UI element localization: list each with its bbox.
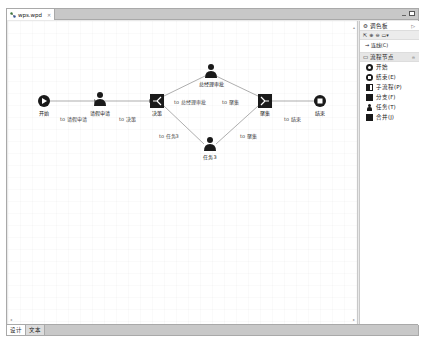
node-start[interactable]: 开始 [38,95,50,117]
node-gm-task[interactable]: 总经理审批 [199,64,224,88]
folder-icon: ▭ [363,54,368,60]
svg-text:请假申请: 请假申请 [90,110,110,117]
workflow-file-icon [10,12,16,18]
svg-text:总经理审批: 总经理审批 [199,81,224,88]
editor-tab-wps[interactable]: wps.wpd ✕ [7,9,55,20]
tab-source[interactable]: 文本 [26,325,45,335]
close-tab-icon[interactable]: ✕ [47,12,51,18]
process-nodes-drawer[interactable]: ▭ 流程节点 ⊖ [360,52,419,62]
marquee-tool-icon[interactable]: ▭▾ [382,32,389,38]
edge-label: to 总经理审批 [174,99,206,106]
end-icon [366,74,373,81]
palette-panel: ⚙ 调色板 ▷ ⇱ ⊕ ⊖ ▭▾ → 连线(C) ▭ 流程节点 ⊖ 开始 结束(… [359,21,419,325]
task-icon [366,104,373,111]
node-task3[interactable]: 任务3 [203,137,216,161]
scroll-corner-marker[interactable]: ▸ [353,317,355,322]
vertical-scroll-marker[interactable]: ▴ [353,25,355,30]
connection-label: → 连线(C) [365,41,388,48]
drawer-toggle-icon[interactable]: ⊖ [412,55,415,60]
edge-label: to 请假申请 [60,116,87,123]
palette-item-subprocess[interactable]: 子流程(P) [360,82,419,92]
horizontal-scroll-marker[interactable]: ◂ [10,317,12,322]
editor-bottom-tabs: 设计 文本 [7,324,418,335]
svg-text:决策: 决策 [152,110,162,117]
edge-label: to 决策 [119,116,136,123]
node-apply-task[interactable]: 请假申请 [90,92,110,117]
edge-label: to 聚集 [240,133,257,140]
window-controls [402,11,415,16]
node-end[interactable]: 结束 [314,95,326,117]
workflow-diagram: 开始 请假申请 决策 总经理审批 [8,21,358,325]
palette-item-start[interactable]: 开始 [360,62,419,72]
zoom-in-icon[interactable]: ⊕ [369,32,373,38]
node-merge-join[interactable]: 聚集 [258,94,272,117]
subprocess-icon [366,84,373,91]
select-tool-icon[interactable]: ⇱ [363,32,367,38]
minimize-icon[interactable] [402,15,406,16]
maximize-icon[interactable] [409,11,415,16]
palette-collapse-icon[interactable]: ▷ [411,23,415,29]
palette-item-task[interactable]: 任务(T) [360,102,419,112]
zoom-out-icon[interactable]: ⊖ [375,32,379,38]
svg-text:任务3: 任务3 [203,154,216,161]
node-decide-fork[interactable]: 决策 [150,94,164,117]
diagram-canvas[interactable]: 开始 请假申请 决策 总经理审批 [8,21,358,325]
palette-item-end[interactable]: 结束(E) [360,72,419,82]
svg-text:结束: 结束 [315,110,325,117]
palette-toolbar: ⇱ ⊕ ⊖ ▭▾ [360,31,419,40]
palette-icon: ⚙ [363,23,368,29]
svg-text:开始: 开始 [39,110,49,117]
edge-label: to 结束 [284,116,301,123]
connection-tool[interactable]: → 连线(C) [360,40,419,49]
tab-design[interactable]: 设计 [7,325,26,335]
join-icon [366,114,373,121]
palette-header[interactable]: ⚙ 调色板 ▷ [360,21,419,31]
editor-tabbar: wps.wpd ✕ [7,9,418,20]
drawer-title: 流程节点 [370,53,394,61]
svg-text:聚集: 聚集 [260,110,270,117]
editor-window: wps.wpd ✕ [6,8,419,336]
fork-icon [366,94,373,101]
edge-label: to 任务3 [159,133,179,140]
edge-label: to 聚集 [222,99,239,106]
palette-item-join[interactable]: 合并(J) [360,112,419,122]
start-icon [366,64,373,71]
palette-title: 调色板 [370,22,388,30]
editor-tab-title: wps.wpd [18,12,42,18]
palette-item-fork[interactable]: 分支(F) [360,92,419,102]
